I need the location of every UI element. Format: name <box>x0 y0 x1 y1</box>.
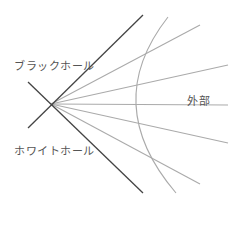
black-hole-label: ブラックホール <box>14 57 95 73</box>
past-horizon <box>28 82 143 193</box>
exterior-label: 外部 <box>187 92 210 108</box>
white-hole-label: ホワイトホール <box>14 142 95 158</box>
ray-lower-2 <box>51 104 228 143</box>
